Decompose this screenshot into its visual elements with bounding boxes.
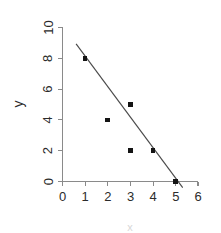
x-tick-label: 3	[127, 189, 134, 204]
x-tick-label: 1	[82, 189, 89, 204]
y-tick-label: 10	[41, 20, 56, 34]
y-axis-ticks	[58, 28, 63, 182]
y-tick-label: 8	[41, 55, 56, 62]
y-tick-label: 6	[41, 85, 56, 92]
x-tick-label: 0	[59, 189, 66, 204]
x-axis-tick-labels: 0 1 2 3 4 5 6	[59, 189, 202, 204]
y-axis-tick-labels: 0 2 4 6 8 10	[41, 20, 56, 185]
data-point	[173, 179, 178, 184]
data-point	[83, 56, 88, 61]
x-tick-label: 5	[172, 189, 179, 204]
x-tick-label: 6	[194, 189, 201, 204]
x-axis-title: x	[127, 221, 133, 233]
y-axis-title: y	[10, 101, 26, 108]
y-tick-label: 0	[41, 178, 56, 185]
data-point	[151, 148, 156, 153]
data-point	[128, 102, 133, 107]
plot-canvas: 0 2 4 6 8 10 0 1 2 3 4 5 6 y x	[0, 0, 221, 233]
y-tick-label: 2	[41, 147, 56, 154]
y-tick-label: 4	[41, 116, 56, 123]
data-point	[128, 148, 133, 153]
data-point	[105, 118, 110, 123]
data-points	[83, 56, 178, 184]
x-tick-label: 2	[104, 189, 111, 204]
x-tick-label: 4	[150, 189, 157, 204]
scatter-plot-figure: 0 2 4 6 8 10 0 1 2 3 4 5 6 y x	[0, 0, 221, 233]
trend-line	[76, 44, 183, 188]
